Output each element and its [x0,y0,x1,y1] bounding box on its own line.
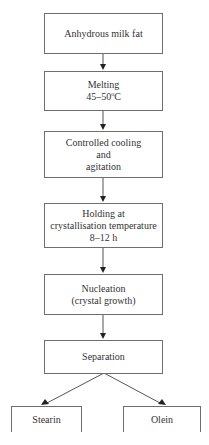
temperature-range: 45–50 [86,91,111,102]
temperature-unit: C [114,91,121,102]
step-label: Controlled cooling [66,137,141,149]
melting-temperature: 45–50oC [86,91,121,103]
arrow-milk-fat-to-melting [100,53,106,70]
step-label: (crystal growth) [71,295,135,307]
arrow-separation-to-stearin [41,373,104,405]
step-controlled-cooling: Controlled cooling and agitation [44,131,163,178]
step-label: agitation [86,161,121,173]
output-label: Olein [151,414,173,426]
step-label: 8–12 h [90,232,118,244]
step-holding: Holding at crystallisation temperature 8… [44,203,163,248]
step-separation: Separation [44,340,163,374]
step-nucleation: Nucleation (crystal growth) [44,274,163,315]
step-label: crystallisation temperature [50,220,156,232]
output-label: Stearin [32,414,60,426]
flowchart: Anhydrous milk fat Melting 45–50oC Contr… [0,0,209,445]
arrow-cooling-to-holding [100,177,106,202]
output-stearin: Stearin [11,406,82,432]
step-label: Nucleation [82,283,126,295]
step-melting: Melting 45–50oC [44,71,163,111]
output-olein: Olein [123,406,201,432]
step-anhydrous-milk-fat: Anhydrous milk fat [44,13,163,54]
arrow-melting-to-cooling [100,110,106,130]
step-label: Melting [88,79,120,91]
step-label: Holding at [82,208,125,220]
arrow-nucleation-to-separation [100,314,106,339]
arrow-holding-to-nucleation [100,247,106,273]
arrow-separation-to-olein [104,373,166,405]
step-label: Separation [82,351,125,363]
step-label: Anhydrous milk fat [64,28,142,40]
step-label: and [96,149,110,161]
